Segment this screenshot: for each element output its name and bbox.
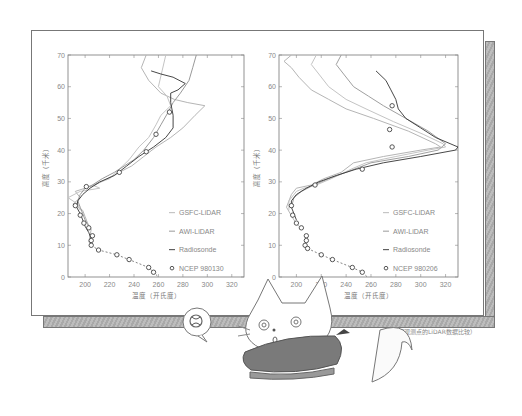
mascot-illustration [0,0,522,416]
speech-bubble-icon [183,308,211,342]
cat-mascot-icon [238,276,412,382]
